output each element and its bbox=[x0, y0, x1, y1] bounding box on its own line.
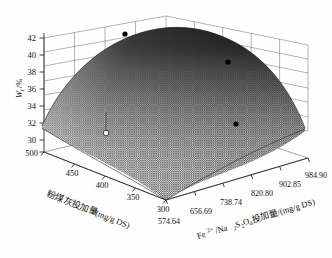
y-tick-2: 738.74 bbox=[220, 198, 242, 207]
z-axis-title-unit: /% bbox=[14, 79, 24, 88]
z-tick-6: 30 bbox=[28, 135, 37, 145]
x-tick-2: 400 bbox=[96, 180, 109, 190]
z-tick-0: 42 bbox=[28, 33, 37, 43]
x-axis-label-cjk: 粉煤灰投加量 bbox=[45, 188, 99, 218]
plot-canvas: 42 40 38 36 34 32 30 500 450 400 350 300… bbox=[0, 0, 332, 258]
x-tick-3: 350 bbox=[127, 192, 140, 202]
y-axis-label-cjk: 投加量 bbox=[250, 207, 279, 225]
x-tick-0: 500 bbox=[25, 148, 38, 158]
y-tick-3: 820.80 bbox=[251, 189, 273, 198]
z-tick-1: 40 bbox=[28, 50, 37, 60]
x-tick-1: 450 bbox=[66, 168, 79, 178]
z-tick-5: 32 bbox=[28, 118, 37, 128]
y-tick-0: 574.64 bbox=[158, 217, 180, 226]
data-point-filled bbox=[122, 31, 127, 36]
response-surface-figure: 42 40 38 36 34 32 30 500 450 400 350 300… bbox=[0, 0, 332, 258]
data-point-filled bbox=[233, 121, 238, 126]
data-point-filled bbox=[225, 59, 230, 64]
z-axis-title-sub: r bbox=[19, 89, 25, 91]
y-tick-1: 656.69 bbox=[190, 207, 212, 216]
x-axis-label-unit: /(mg/g DS) bbox=[92, 207, 132, 230]
z-axis-title: W r /% bbox=[14, 79, 25, 98]
y-tick-4: 902.85 bbox=[279, 180, 301, 189]
y-tick-5: 984.90 bbox=[305, 171, 327, 180]
z-tick-3: 36 bbox=[28, 84, 37, 94]
x-tick-4: 300 bbox=[157, 204, 170, 214]
y-axis-label-unit: /(mg/g DS) bbox=[276, 196, 316, 217]
z-tick-4: 34 bbox=[28, 101, 37, 111]
data-point-open bbox=[103, 130, 109, 136]
z-tick-2: 38 bbox=[28, 67, 37, 77]
y-axis-label-slash-na: /Na bbox=[214, 222, 229, 235]
z-axis: 42 40 38 36 34 32 30 bbox=[28, 33, 45, 152]
y-axis-label-prefix: Fe bbox=[196, 229, 207, 241]
